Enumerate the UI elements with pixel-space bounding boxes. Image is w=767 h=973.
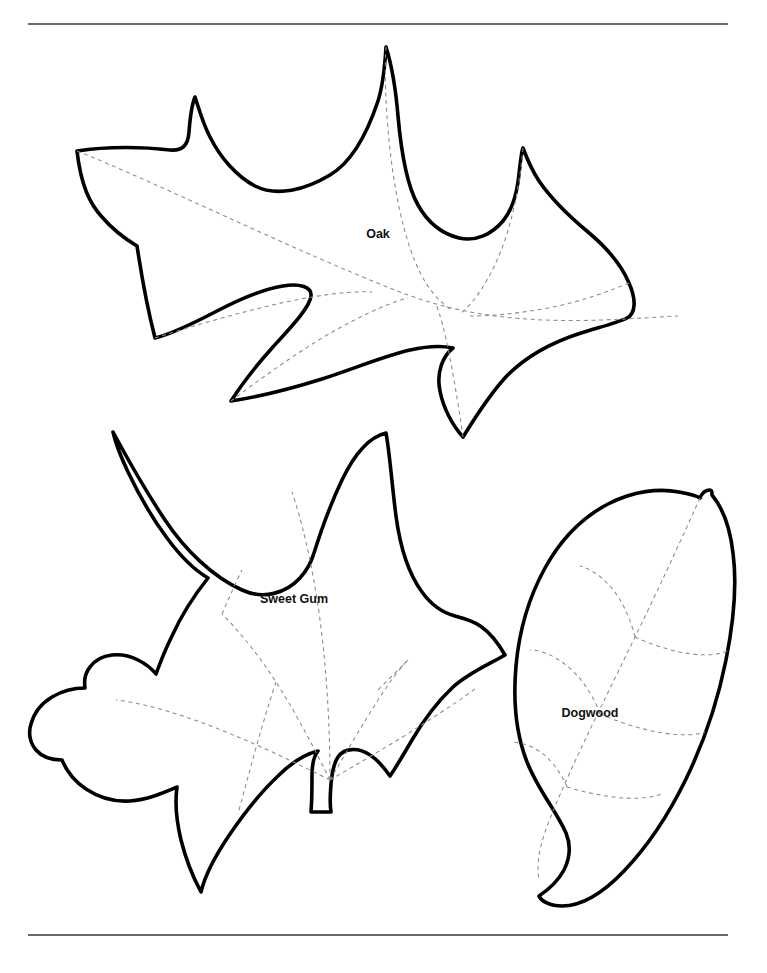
leaf-template-canvas: Oak Sweet Gum (0, 0, 767, 973)
dogwood-outline[interactable] (515, 490, 735, 906)
dogwood-label: Dogwood (562, 706, 619, 720)
leaf-sweet-gum[interactable]: Sweet Gum (30, 432, 505, 892)
leaf-oak[interactable]: Oak (77, 47, 678, 437)
sweet-gum-label: Sweet Gum (260, 592, 328, 606)
worksheet-page: Oak Sweet Gum (0, 0, 767, 973)
sweet-gum-outline[interactable] (30, 432, 505, 892)
oak-outline[interactable] (77, 47, 634, 437)
leaf-dogwood[interactable]: Dogwood (511, 490, 735, 906)
oak-label: Oak (366, 227, 390, 241)
